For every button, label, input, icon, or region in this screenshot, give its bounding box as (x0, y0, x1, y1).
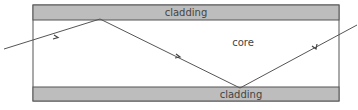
top-cladding-label: cladding (165, 7, 208, 18)
bottom-cladding-label: cladding (220, 89, 263, 100)
bottom-cladding (33, 87, 339, 101)
core-label: core (232, 37, 254, 48)
optical-fibre-diagram: cladding core cladding (0, 0, 358, 110)
